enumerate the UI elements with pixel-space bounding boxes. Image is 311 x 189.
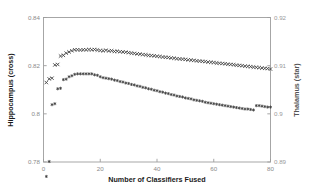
data-point-star: [269, 106, 272, 109]
x-tick-label: 0: [42, 165, 46, 172]
data-point-star: [181, 95, 184, 98]
data-point-star: [68, 75, 71, 78]
data-point-star: [65, 78, 68, 81]
series-hippocampus-cross: [45, 48, 273, 84]
data-point-star: [85, 72, 88, 75]
x-axis-ticks: [44, 159, 271, 162]
data-point-star: [221, 104, 224, 107]
data-point-star: [170, 93, 173, 96]
data-point-star: [255, 104, 258, 107]
data-point-star: [190, 97, 193, 100]
x-axis-title: Number of Classifiers Fused: [108, 175, 205, 184]
data-point-star: [232, 106, 235, 109]
y-right-tick-label: 0.89: [274, 158, 287, 165]
data-point-star: [127, 82, 130, 85]
data-point-cross: [62, 54, 65, 57]
y-right-tick-label: 0.91: [274, 62, 287, 69]
data-point-star: [235, 106, 238, 109]
data-point-star: [258, 104, 261, 107]
data-point-star: [249, 108, 252, 111]
x-tick-label: 60: [210, 165, 217, 172]
data-point-star: [107, 77, 110, 80]
data-point-star: [261, 105, 264, 108]
y-right-tick-label: 0.92: [274, 14, 287, 21]
scatter-plot: 020406080 0.780.80.820.84 0.890.90.910.9…: [0, 0, 311, 189]
data-point-star: [144, 86, 147, 89]
data-point-star: [76, 72, 79, 75]
data-point-star: [90, 72, 93, 75]
y-left-tick-label: 0.8: [31, 110, 40, 117]
data-point-star: [54, 102, 57, 105]
data-point-star: [122, 80, 125, 83]
data-point-star: [164, 92, 167, 95]
data-point-star: [110, 78, 113, 81]
data-point-star: [147, 87, 150, 90]
y-axis-right-title: Thalamus (star): [292, 63, 301, 117]
y-axis-left-title: Hippocampus (cross): [6, 53, 15, 127]
data-point-star: [215, 103, 218, 106]
data-point-star: [45, 175, 48, 178]
y-left-tick-label: 0.84: [28, 14, 41, 21]
data-point-star: [79, 72, 82, 75]
data-point-star: [59, 87, 62, 90]
x-tick-label: 40: [154, 165, 161, 172]
data-point-star: [263, 105, 266, 108]
data-point-star: [173, 93, 176, 96]
data-point-star: [212, 102, 215, 105]
x-tick-label: 20: [97, 165, 104, 172]
data-point-cross: [50, 76, 53, 79]
data-point-star: [116, 79, 119, 82]
data-point-star: [227, 105, 230, 108]
data-point-star: [99, 75, 102, 78]
data-point-cross: [59, 54, 62, 57]
data-point-star: [51, 103, 54, 106]
data-point-star: [187, 97, 190, 100]
data-point-star: [218, 103, 221, 106]
y-left-tick-label: 0.78: [28, 158, 41, 165]
data-point-star: [93, 73, 96, 76]
data-point-star: [102, 76, 105, 79]
data-point-star: [266, 106, 269, 109]
data-point-star: [195, 99, 198, 102]
data-point-cross: [110, 49, 113, 52]
data-point-star: [150, 88, 153, 91]
data-point-star: [244, 107, 247, 110]
data-point-star: [198, 99, 201, 102]
data-point-star: [252, 108, 255, 111]
data-point-star: [141, 86, 144, 89]
data-point-star: [96, 74, 99, 77]
data-point-star: [201, 100, 204, 103]
data-point-star: [210, 102, 213, 105]
data-point-star: [136, 84, 139, 87]
data-point-star: [229, 105, 232, 108]
data-point-star: [130, 83, 133, 86]
data-point-star: [113, 79, 116, 82]
y-axis-left-tick-labels: 0.780.80.820.84: [28, 14, 41, 166]
data-point-star: [238, 107, 241, 110]
data-point-cross: [45, 81, 48, 84]
data-point-cross: [104, 49, 107, 52]
y-axis-right-ticks: [267, 18, 270, 163]
data-point-star: [139, 85, 142, 88]
data-point-star: [176, 94, 179, 97]
data-point-star: [246, 107, 249, 110]
data-point-star: [56, 87, 59, 90]
y-axis-right-tick-labels: 0.890.90.910.92: [274, 14, 287, 166]
data-point-star: [153, 89, 156, 92]
data-point-star: [88, 72, 91, 75]
data-point-star: [105, 77, 108, 80]
data-point-star: [241, 107, 244, 110]
data-point-star: [224, 104, 227, 107]
data-point-star: [178, 95, 181, 98]
data-point-star: [48, 160, 51, 163]
data-point-cross: [47, 77, 50, 80]
x-tick-label: 80: [267, 165, 274, 172]
data-point-star: [124, 81, 127, 84]
data-point-star: [73, 73, 76, 76]
data-point-star: [71, 74, 74, 77]
data-point-star: [204, 101, 207, 104]
data-point-star: [207, 101, 210, 104]
x-axis-tick-labels: 020406080: [42, 165, 275, 172]
data-point-cross: [56, 63, 59, 66]
data-point-star: [156, 89, 159, 92]
